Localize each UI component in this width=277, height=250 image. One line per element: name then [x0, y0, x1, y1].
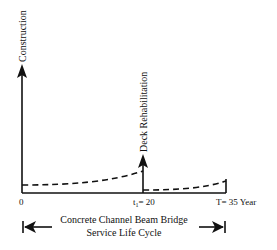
life-cycle-diagram: Construction Deck Rehabilitation 0 t1= 2…: [0, 0, 277, 250]
diagram-title: Concrete Channel Beam Bridge: [60, 214, 188, 225]
diagram-subtitle: Service Life Cycle: [87, 227, 163, 238]
cost-curve-1: [22, 171, 143, 185]
construction-label: Construction: [17, 10, 28, 62]
cost-curve-2: [143, 181, 226, 190]
tick-start: 0: [19, 197, 24, 207]
tick-end: T= 35 Year: [216, 197, 256, 207]
rehab-label: Deck Rehabilitation: [138, 72, 149, 152]
tick-mid: t1= 20: [133, 197, 155, 208]
